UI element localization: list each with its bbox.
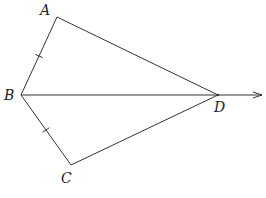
label-a: A [38, 2, 50, 18]
label-b: B [3, 87, 14, 103]
label-d: D [213, 99, 225, 115]
segment-cd [71, 95, 218, 165]
point-d-dot [217, 94, 219, 96]
label-c: C [61, 170, 72, 186]
segment-ad [57, 17, 218, 95]
tick-mark-bc [43, 128, 50, 133]
geometry-diagram: A B C D [0, 0, 266, 198]
